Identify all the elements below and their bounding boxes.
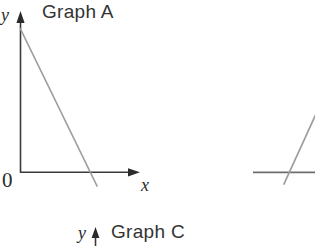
graph-c-title: Graph C [111,222,185,241]
graph-partial-plot-line [284,114,315,184]
graph-a-plot-line [21,29,98,186]
graph-a-x-axis-label: x [141,176,149,194]
graph-a-x-axis-arrow-icon [128,168,140,176]
graph-a-group [16,11,140,186]
graph-c-y-axis-label: y [78,224,86,242]
graph-a-y-axis-arrow-icon [16,11,24,23]
figure-drawing [0,0,315,246]
graph-a-origin-label: 0 [2,170,13,191]
graph-c-y-axis-arrow-icon [92,227,100,238]
graph-a-title: Graph A [42,2,114,21]
graph-a-y-axis-label: y [1,6,9,24]
graph-c-group [92,227,100,246]
figure-canvas: Graph A y x 0 Graph C y [0,0,315,246]
graph-partial-right-group [253,114,315,184]
